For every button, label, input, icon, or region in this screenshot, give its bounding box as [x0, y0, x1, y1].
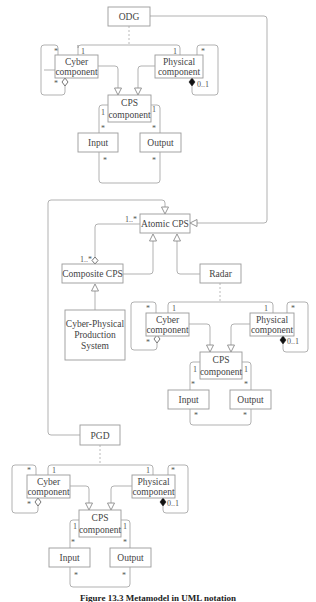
svg-text:Output: Output — [237, 395, 264, 405]
svg-text:1..*: 1..* — [125, 215, 137, 224]
svg-text:1: 1 — [244, 365, 248, 374]
svg-text:Cyber: Cyber — [37, 477, 61, 487]
output-label: Output — [147, 138, 174, 148]
radar-label: Radar — [209, 269, 233, 279]
svg-text:*: * — [291, 304, 295, 313]
generalization-arrow-icon — [162, 207, 169, 214]
svg-text:0..1: 0..1 — [167, 499, 179, 508]
svg-text:1: 1 — [123, 522, 127, 531]
svg-text:Cyber: Cyber — [156, 315, 180, 325]
generalization-arrow-icon — [108, 503, 115, 510]
generalization-arrow-icon — [92, 284, 99, 291]
input-label: Input — [88, 138, 108, 148]
svg-text:component: component — [146, 325, 189, 335]
svg-text:1: 1 — [73, 522, 77, 531]
svg-text:*: * — [243, 411, 247, 420]
pgd-association-line — [48, 465, 153, 475]
composition-diamond-icon — [189, 78, 195, 86]
odg-group: ODG Cyber component * * 1 Physical compo… — [41, 7, 267, 227]
svg-text:1: 1 — [81, 47, 85, 56]
svg-text:*: * — [146, 338, 150, 347]
svg-text:Input: Input — [59, 553, 79, 563]
svg-text:*: * — [101, 124, 105, 133]
svg-text:*: * — [152, 156, 156, 165]
svg-text:*: * — [27, 466, 31, 475]
generalization-arrow-icon — [207, 345, 214, 352]
svg-text:*: * — [201, 47, 205, 56]
generalization-arrow-icon — [174, 234, 181, 241]
svg-text:*: * — [123, 538, 127, 547]
pgd-group: PGD Cyber component * * 1 Physical compo… — [12, 425, 188, 587]
svg-text:*: * — [74, 571, 78, 580]
svg-text:*: * — [152, 124, 156, 133]
pgd-label: PGD — [90, 431, 109, 441]
svg-text:1: 1 — [264, 304, 268, 313]
svg-text:*: * — [146, 304, 150, 313]
radar-group: Cyber component * * 1 Physical component… — [131, 283, 308, 425]
cyber-label-1: Cyber — [65, 57, 89, 67]
svg-text:*: * — [54, 79, 58, 88]
odg-label: ODG — [119, 12, 140, 22]
atomic-cps-label: Atomic CPS — [141, 219, 189, 229]
cpps-label-3: System — [81, 341, 110, 351]
svg-text:*: * — [54, 47, 58, 56]
svg-text:Output: Output — [117, 553, 144, 563]
svg-text:0..1: 0..1 — [197, 80, 209, 89]
svg-text:1: 1 — [101, 108, 105, 117]
input-output-loop — [99, 152, 160, 183]
svg-text:component: component — [200, 367, 243, 377]
cps-label-2: component — [108, 110, 151, 120]
physical-label-1: Physical — [163, 57, 196, 67]
svg-text:0..1: 0..1 — [287, 337, 299, 346]
cpps-label-2: Production — [74, 330, 116, 340]
svg-text:1: 1 — [52, 466, 56, 475]
generalization-arrow-icon — [115, 88, 122, 95]
svg-text:1: 1 — [172, 304, 176, 313]
input-output-loop — [190, 409, 251, 425]
svg-text:*: * — [191, 380, 195, 389]
svg-text:1: 1 — [152, 105, 156, 114]
odg-association-line — [78, 45, 180, 55]
figure-caption: Figure 13.3 Metamodel in UML notation — [80, 593, 236, 602]
svg-text:*: * — [122, 571, 126, 580]
svg-text:CPS: CPS — [92, 513, 109, 523]
core-hierarchy: Atomic CPS 1..* 1..* Composite CPS Radar… — [48, 200, 241, 435]
uml-metamodel-diagram: ODG Cyber component * * 1 Physical compo… — [0, 0, 316, 602]
svg-text:*: * — [171, 466, 175, 475]
svg-text:1: 1 — [173, 47, 177, 56]
svg-text:*: * — [194, 411, 198, 420]
aggregation-diamond-icon — [62, 78, 68, 86]
composite-atomic-aggregation — [95, 224, 140, 257]
svg-text:*: * — [71, 538, 75, 547]
composite-cps-label: Composite CPS — [62, 269, 122, 279]
svg-text:component: component — [79, 525, 122, 535]
svg-text:Physical: Physical — [256, 315, 289, 325]
svg-text:1: 1 — [146, 466, 150, 475]
svg-text:*: * — [244, 380, 248, 389]
composition-diamond-icon — [280, 336, 286, 344]
generalization-arrow-icon — [150, 234, 157, 241]
aggregation-diamond-icon — [92, 257, 98, 264]
svg-text:1..*: 1..* — [80, 255, 92, 264]
radar-association-line — [168, 302, 273, 313]
cps-label-1: CPS — [121, 98, 138, 108]
cpps-label-1: Cyber-Physical — [66, 319, 125, 329]
svg-text:1: 1 — [193, 365, 197, 374]
svg-text:Input: Input — [178, 395, 198, 405]
svg-text:*: * — [103, 156, 107, 165]
generalization-arrow-icon — [86, 503, 93, 510]
svg-text:CPS: CPS — [213, 355, 230, 365]
input-output-loop — [70, 567, 130, 587]
generalization-arrow-icon — [135, 88, 142, 95]
svg-text:Physical: Physical — [137, 477, 170, 487]
generalization-arrow-icon — [190, 220, 197, 227]
svg-text:component: component — [132, 487, 175, 497]
generalization-arrow-icon — [228, 345, 235, 352]
svg-text:component: component — [27, 487, 70, 497]
physical-label-2: component — [158, 67, 201, 77]
composition-diamond-icon — [160, 498, 166, 506]
odg-to-atomic-line — [150, 16, 267, 223]
aggregation-diamond-icon — [35, 498, 41, 506]
svg-text:component: component — [251, 325, 294, 335]
svg-text:*: * — [27, 500, 31, 509]
